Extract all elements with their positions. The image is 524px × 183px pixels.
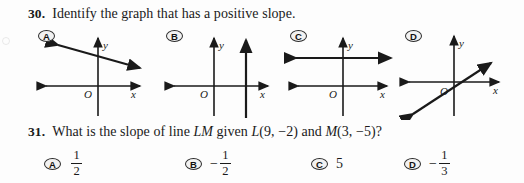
answer-value-b: − 1 2	[210, 150, 231, 178]
answer-b-numerator: 1	[220, 149, 230, 163]
answer-a-numerator: 1	[71, 149, 81, 163]
answer-c-value: 5	[336, 156, 343, 172]
answer-a-denominator: 2	[71, 164, 81, 178]
graph-c-x-label: x	[379, 88, 385, 100]
graph-b-x-label: x	[259, 88, 265, 100]
graph-choice-d[interactable]: D y x O	[399, 28, 524, 120]
question-31-answer-choices: A 1 2 B − 1 2 C	[0, 148, 524, 183]
answer-a-fraction: 1 2	[71, 149, 82, 177]
answer-d-numerator: 1	[439, 149, 449, 163]
answer-value-d: − 1 3	[429, 150, 450, 178]
graph-d-x-label: x	[492, 84, 498, 96]
question-30-number: 30.	[28, 6, 45, 22]
question-31-number: 31.	[28, 124, 45, 140]
graph-b-svg: y x O	[160, 28, 285, 120]
answer-choice-c[interactable]: C 5	[311, 148, 343, 180]
choice-bubble-b[interactable]: B	[166, 30, 183, 42]
q31-mid: given	[213, 124, 251, 139]
choice-bubble-a[interactable]: A	[38, 30, 55, 42]
answer-value-a: 1 2	[69, 150, 82, 178]
q31-line-name: LM	[193, 124, 213, 139]
graph-b-y-label: y	[218, 39, 224, 51]
q31-lead: What is the slope of line	[52, 124, 193, 139]
question-30-prompt: Identify the graph that has a positive s…	[52, 6, 295, 22]
graph-d-svg: y x O	[399, 28, 524, 120]
answer-b-fraction: 1 2	[220, 149, 231, 177]
answer-choice-a[interactable]: A 1 2	[44, 148, 82, 180]
answer-bubble-c[interactable]: C	[311, 158, 328, 170]
answer-d-fraction: 1 3	[439, 149, 450, 177]
q31-point-m: M	[325, 124, 337, 139]
q31-conj: and	[298, 124, 325, 139]
graph-c-origin-label: O	[329, 88, 337, 100]
graph-choice-c[interactable]: C y x O	[284, 28, 409, 120]
graph-b-origin-label: O	[200, 88, 208, 100]
graph-c-y-label: y	[347, 39, 353, 51]
question-30-graph-choices: A y x O B	[0, 28, 524, 120]
graph-d-plotted-line	[413, 63, 491, 114]
answer-value-c: 5	[336, 156, 343, 172]
answer-b-denominator: 2	[220, 164, 230, 178]
question-31-prompt: What is the slope of line LM given L(9, …	[52, 124, 382, 140]
graph-c-svg: y x O	[284, 28, 409, 120]
graph-choice-a[interactable]: A y x O	[32, 28, 157, 120]
choice-bubble-c[interactable]: C	[290, 30, 307, 42]
graph-d-origin-label: O	[440, 85, 448, 97]
answer-bubble-d[interactable]: D	[404, 158, 421, 170]
graph-choice-b[interactable]: B y x O	[160, 28, 285, 120]
answer-bubble-a[interactable]: A	[44, 158, 61, 170]
answer-choice-d[interactable]: D − 1 3	[404, 148, 450, 180]
graph-d-y-label: y	[458, 37, 464, 49]
choice-bubble-d[interactable]: D	[405, 30, 422, 42]
worksheet-page: 30. Identify the graph that has a positi…	[0, 0, 524, 183]
graph-a-plotted-line	[58, 45, 140, 68]
answer-bubble-b[interactable]: B	[185, 158, 202, 170]
graph-a-svg: y x O	[32, 28, 157, 120]
question-31-line: 31. What is the slope of line LM given L…	[28, 124, 382, 140]
answer-b-sign: −	[210, 156, 218, 172]
q31-point-m-coords: (3, −5)	[337, 124, 376, 139]
question-30-line: 30. Identify the graph that has a positi…	[28, 6, 296, 22]
answer-d-denominator: 3	[439, 164, 449, 178]
q31-point-l-coords: (9, −2)	[259, 124, 298, 139]
answer-choice-b[interactable]: B − 1 2	[185, 148, 231, 180]
graph-a-x-label: x	[130, 88, 136, 100]
q31-end: ?	[376, 124, 382, 139]
graph-a-origin-label: O	[84, 88, 92, 100]
answer-d-sign: −	[429, 156, 437, 172]
graph-a-y-label: y	[102, 39, 108, 51]
